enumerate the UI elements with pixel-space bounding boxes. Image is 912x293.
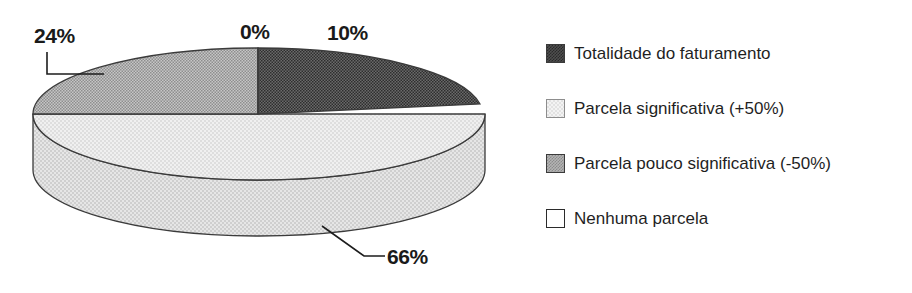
legend-swatch-medium <box>546 154 565 173</box>
chart-plot-area: 24% 0% 10% 66% <box>0 0 520 293</box>
legend-swatch-lightest <box>546 99 565 118</box>
legend-swatch-white <box>546 209 565 228</box>
chart-legend: Totalidade do faturamento Parcela signif… <box>546 26 912 246</box>
legend-item-nenhuma-parcela: Nenhuma parcela <box>546 191 912 246</box>
pie-slice-24 <box>33 48 258 114</box>
legend-item-totalidade: Totalidade do faturamento <box>546 26 912 81</box>
legend-label-nenhuma-parcela: Nenhuma parcela <box>574 210 708 227</box>
legend-label-parcela-significativa: Parcela significativa (+50%) <box>574 100 784 117</box>
pie-chart-figure: 24% 0% 10% 66% Totalidade do faturamento… <box>0 0 912 293</box>
legend-swatch-dark <box>546 44 565 63</box>
data-label-0: 0% <box>240 21 270 42</box>
data-label-10: 10% <box>327 22 368 43</box>
legend-label-parcela-pouco-significativa: Parcela pouco significativa (-50%) <box>574 155 831 172</box>
legend-item-parcela-significativa: Parcela significativa (+50%) <box>546 81 912 136</box>
data-label-66: 66% <box>387 246 428 267</box>
legend-item-parcela-pouco-significativa: Parcela pouco significativa (-50%) <box>546 136 912 191</box>
legend-label-totalidade: Totalidade do faturamento <box>574 45 771 62</box>
pie-top-face <box>33 48 485 180</box>
pie-slice-10 <box>258 48 480 114</box>
pie-chart-graphic <box>0 0 520 293</box>
data-label-24: 24% <box>34 25 75 46</box>
